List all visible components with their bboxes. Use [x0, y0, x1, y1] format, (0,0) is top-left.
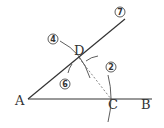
marker-step7: 7 — [115, 7, 125, 17]
svg-text:7: 7 — [117, 8, 123, 17]
construction-diagram: A B C D 7 4 6 2 — [0, 0, 164, 128]
svg-text:6: 6 — [62, 80, 68, 89]
label-b: B — [141, 97, 151, 112]
marker-step4: 4 — [48, 34, 58, 44]
svg-text:4: 4 — [50, 35, 56, 44]
label-c: C — [108, 97, 118, 112]
marker-step6: 6 — [60, 79, 70, 89]
svg-text:2: 2 — [108, 63, 114, 72]
marker-step2: 2 — [106, 62, 116, 72]
label-a: A — [14, 93, 25, 108]
label-d: D — [74, 43, 84, 58]
arc-near-d — [86, 56, 98, 61]
